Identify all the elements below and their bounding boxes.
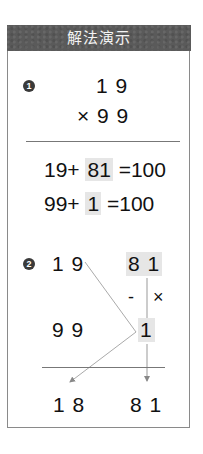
times-sign: × [153, 285, 165, 309]
step-2-top-right: 8 1 [126, 252, 162, 276]
step-2-divider [42, 367, 165, 368]
step-2-result-left: 1 8 [53, 393, 85, 417]
step-2-mid-left: 9 9 [52, 318, 84, 342]
step-2-mid-right: 1 [138, 318, 155, 342]
step-2-result-right: 8 1 [130, 393, 162, 417]
step-2-badge: 2 [23, 258, 35, 270]
step-2-arrows [0, 0, 203, 454]
minus-sign: - [128, 285, 135, 309]
step-2-top-left: 1 9 [52, 252, 84, 276]
